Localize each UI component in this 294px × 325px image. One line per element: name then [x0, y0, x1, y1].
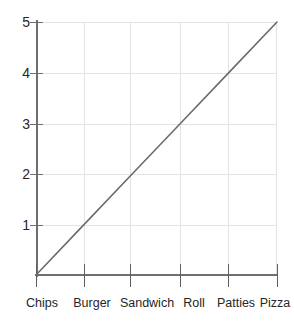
- data-series-line: [36, 22, 277, 275]
- series-line-chart: [0, 0, 294, 325]
- chart-container: 5 4 3 2 1 Chips Burger Sandwich Roll Pat…: [0, 0, 294, 325]
